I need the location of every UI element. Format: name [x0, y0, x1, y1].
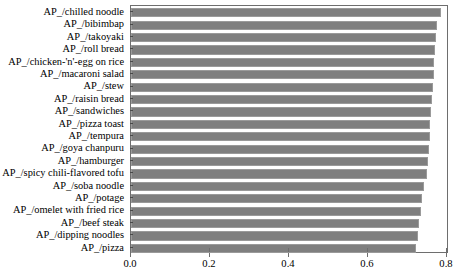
- x-axis-tick-inner: [446, 248, 447, 252]
- x-axis-tick-inner: [209, 248, 210, 252]
- x-axis-tick: [446, 253, 447, 257]
- bar: [131, 207, 421, 216]
- bar: [131, 120, 430, 129]
- x-axis-tick-label: 0.6: [360, 258, 373, 269]
- y-axis-tick: [130, 135, 133, 136]
- bar: [131, 132, 430, 141]
- x-axis-tick-label: 0.4: [281, 258, 294, 269]
- bar: [131, 58, 434, 67]
- x-axis-tick-inner: [288, 248, 289, 252]
- y-axis-labels: AP_/chilled noodleAP_/bibimbapAP_/takoya…: [0, 5, 128, 253]
- bar: [131, 70, 434, 79]
- x-axis-tick: [288, 253, 289, 257]
- bar: [131, 182, 424, 191]
- plot-area: [130, 5, 448, 253]
- y-axis-tick-label: AP_/pizza: [81, 241, 124, 255]
- bar: [131, 8, 441, 17]
- x-axis-tick-inner: [367, 248, 368, 252]
- y-axis-tick: [130, 110, 133, 111]
- bar: [131, 231, 418, 240]
- bar: [131, 33, 436, 42]
- y-axis-tick: [130, 61, 133, 62]
- bar-rows: [131, 6, 447, 252]
- x-axis-tick-label: 0.0: [123, 258, 136, 269]
- y-axis-tick: [130, 123, 133, 124]
- x-axis-tick: [367, 253, 368, 257]
- y-axis-tick: [130, 36, 133, 37]
- y-axis-tick: [130, 148, 133, 149]
- bar: [131, 169, 427, 178]
- x-axis-tick-inner: [130, 248, 131, 252]
- x-axis-tick: [209, 253, 210, 257]
- y-axis-tick: [130, 98, 133, 99]
- bar: [131, 145, 429, 154]
- y-axis-tick: [130, 234, 133, 235]
- y-axis-tick: [130, 160, 133, 161]
- bar: [131, 21, 437, 30]
- bar: [131, 244, 416, 253]
- y-axis-tick: [130, 73, 133, 74]
- y-axis-tick: [130, 172, 133, 173]
- y-axis-tick: [130, 24, 133, 25]
- x-axis-tick-label: 0.2: [202, 258, 215, 269]
- x-axis-tick: [130, 253, 131, 257]
- bar: [131, 194, 422, 203]
- bar: [131, 45, 435, 54]
- x-axis-tick-label: 0.8: [439, 258, 452, 269]
- bar-chart: AP_/chilled noodleAP_/bibimbapAP_/takoya…: [0, 0, 466, 279]
- bar: [131, 107, 431, 116]
- y-axis-tick: [130, 48, 133, 49]
- y-axis-tick: [130, 185, 133, 186]
- y-axis-tick: [130, 222, 133, 223]
- bar: [131, 219, 419, 228]
- bar: [131, 95, 432, 104]
- bar-row: [131, 242, 447, 256]
- y-axis-tick: [130, 247, 133, 248]
- bar: [131, 157, 428, 166]
- y-axis-tick: [130, 210, 133, 211]
- bar: [131, 83, 433, 92]
- y-axis-tick: [130, 86, 133, 87]
- y-axis-tick: [130, 197, 133, 198]
- y-axis-tick: [130, 11, 133, 12]
